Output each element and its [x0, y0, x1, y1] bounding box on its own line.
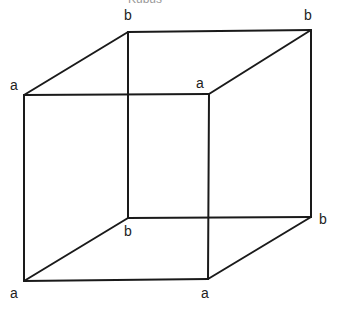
vertex-label-front_bottom_left: a [10, 285, 18, 301]
edge-back_top_left-back_top_right [128, 30, 311, 32]
vertex-label-front_top_right: a [196, 75, 204, 91]
vertex-label-back_top_right: b [304, 7, 312, 23]
diagram-caption: Kubus [128, 0, 162, 6]
vertex-label-front_bottom_right: a [201, 285, 209, 301]
edge-front_bottom_left-front_bottom_right [24, 279, 208, 281]
edge-front_top_right-front_bottom_right [208, 94, 209, 279]
cube-diagram: Kubus aabbbbaa [0, 0, 339, 313]
vertex-label-front_top_left: a [10, 77, 18, 93]
edge-front_bottom_left-back_bottom_left [24, 218, 128, 281]
edge-front_top_left-front_top_right [24, 94, 209, 95]
vertex-labels: aabbbbaa [10, 7, 327, 301]
cube-edges [24, 30, 311, 281]
edge-front_top_left-back_top_left [24, 32, 128, 95]
vertex-label-back_top_left: b [124, 7, 132, 23]
edge-front_top_right-back_top_right [209, 30, 311, 94]
vertex-label-back_bottom_left: b [124, 223, 132, 239]
edge-back_bottom_left-back_bottom_right [128, 217, 311, 218]
vertex-label-back_bottom_right: b [319, 211, 327, 227]
edge-front_bottom_right-back_bottom_right [208, 217, 311, 279]
